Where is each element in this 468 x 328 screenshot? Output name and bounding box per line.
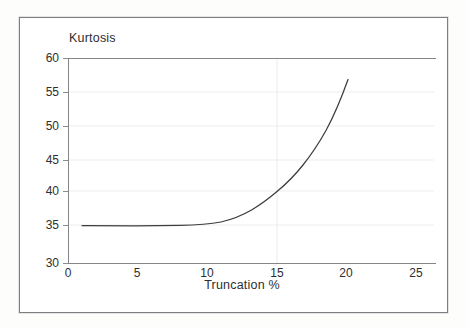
y-tick-label-35: 35 bbox=[33, 218, 59, 232]
x-tick-label-0: 0 bbox=[55, 266, 81, 280]
kurtosis-curve bbox=[82, 80, 348, 226]
x-tick-label-25: 25 bbox=[403, 266, 429, 280]
y-tick-label-45: 45 bbox=[33, 153, 59, 167]
y-tick-label-60: 60 bbox=[33, 51, 59, 65]
y-tick-label-55: 55 bbox=[33, 85, 59, 99]
y-tick-marks bbox=[63, 59, 68, 264]
x-tick-label-20: 20 bbox=[333, 266, 359, 280]
y-tick-label-40: 40 bbox=[33, 184, 59, 198]
x-tick-label-15: 15 bbox=[264, 266, 290, 280]
x-tick-label-10: 10 bbox=[194, 266, 220, 280]
x-tick-label-5: 5 bbox=[124, 266, 150, 280]
y-axis-title: Kurtosis bbox=[69, 31, 116, 45]
y-tick-label-50: 50 bbox=[33, 119, 59, 133]
horizontal-gridlines bbox=[68, 92, 434, 225]
x-axis-title: Truncation % bbox=[0, 278, 468, 292]
figure-container: Kurtosis Truncation % 60 55 50 45 40 35 … bbox=[0, 0, 468, 328]
